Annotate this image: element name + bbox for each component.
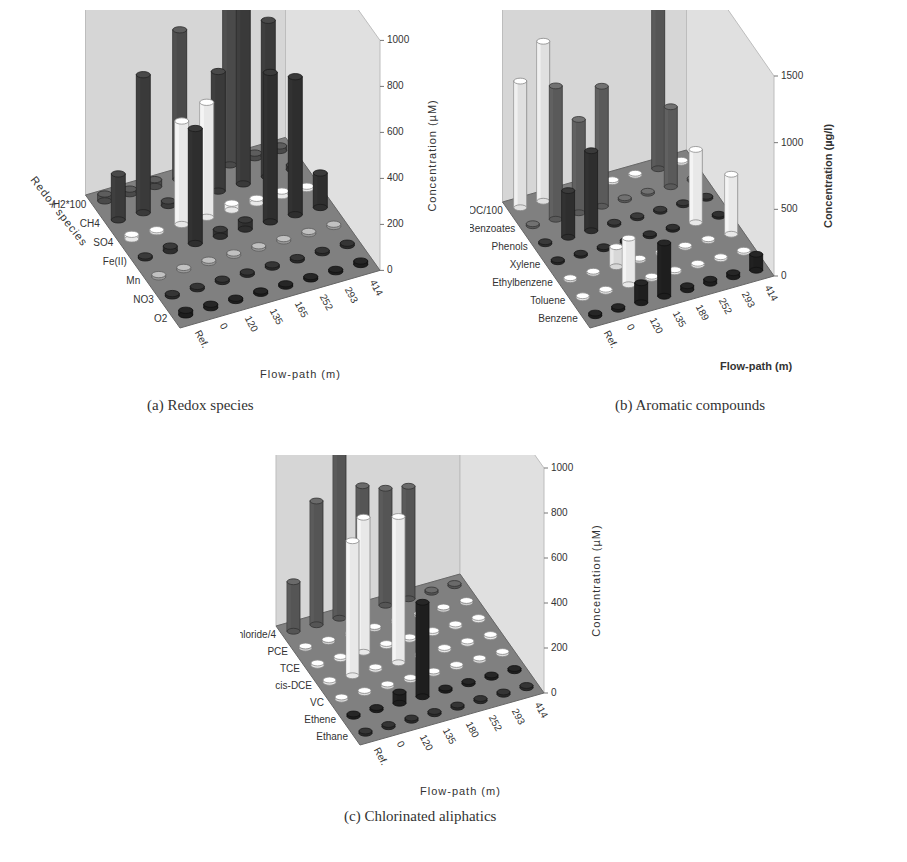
bar-tce [380,641,393,649]
bar-xylene [597,244,610,252]
chlorinated-aliphatics-3d-bar-chart: 02004006008001000Concentration (µM)Ref.0… [240,455,670,805]
z-tick-label: 600 [551,552,568,563]
bar-cis-dce [346,538,359,679]
bar-doc-100 [537,38,550,204]
bar-phenols [562,188,575,241]
x-tick-label: 414 [533,700,551,720]
bar-benzene [612,304,625,313]
bar-ethane [428,709,441,717]
bar-doc-100 [652,10,665,172]
y-tick-label: Xylene [510,259,541,270]
bar-chloride-4 [425,587,438,595]
bar-vc [404,675,417,683]
bar-ch4 [236,10,250,187]
bar-o2 [279,281,293,290]
bar-h2-100 [98,191,112,204]
z-axis-title: Concentration (µM) [426,99,438,211]
bar-ethene [347,711,360,719]
bar-cis-dce [438,645,451,653]
z-axis-title: Concentration (µg/l) [822,124,834,228]
bar-phenols [677,200,690,208]
x-tick-label: 293 [510,707,528,727]
bar-so4 [125,231,139,242]
bar-ethane [405,715,418,723]
bar-no3 [215,276,229,285]
bar-ethane [382,722,395,730]
z-tick-label: 400 [551,597,568,608]
bar-ethene [439,685,452,693]
bar-ethane [520,683,533,691]
bar-vc [358,688,371,696]
y-tick-label: Ethene [304,714,336,725]
bar-chloride-4 [310,498,323,628]
z-tick-label: 0 [387,264,393,275]
y-tick-label: DOC/100 [470,205,503,216]
y-tick-label: Benzoates [470,223,515,234]
bar-doc-100 [514,78,527,211]
aromatic-compounds-3d-bar-chart: 050010001500Concentration (µg/l)Ref.0120… [470,10,900,390]
z-tick-label: 1000 [387,34,410,45]
z-tick-label: 600 [387,126,404,137]
bar-ethene [393,689,406,706]
bar-fe-ii- [263,69,277,225]
bar-chloride-4 [448,581,461,589]
y-tick-label: O2 [154,313,168,324]
x-tick-label: 120 [648,316,666,336]
bar-toluene [691,260,704,268]
bar-cis-dce [461,638,474,646]
z-tick-label: 800 [551,507,568,518]
bar-benzene [681,283,694,293]
bar-ethylbenzene [610,244,623,270]
bar-no3 [190,283,204,292]
bar-vc [496,649,509,657]
x-tick-label: Ref. [193,328,211,349]
bar-mn [152,271,166,280]
bar-ethene [416,599,429,699]
bar-tce [449,621,462,629]
bar-ethene [462,679,475,687]
bar-fe-ii- [188,125,202,246]
bar-mn [227,250,241,259]
y-tick-label: Benzene [538,313,578,324]
bar-phenols [585,148,598,234]
bar-o2 [254,288,268,297]
bar-so4 [225,200,239,213]
bar-xylene [643,231,656,239]
y-tick-label: Ethane [316,731,348,742]
bar-mn [202,257,216,266]
bar-mn [327,221,341,230]
bar-ethylbenzene [725,171,738,237]
bar-o2 [179,307,193,318]
bar-ethene [485,672,498,680]
x-tick-label: 180 [464,720,482,740]
bar-ethene [508,666,521,674]
x-axis-title: Flow-path (m) [260,368,341,380]
z-tick-label: 1000 [551,462,574,473]
bar-ethane [497,689,510,697]
bar-benzoates [618,195,631,203]
x-tick-label: Ref. [372,746,390,767]
bar-ch4 [161,198,175,209]
bar-ethylbenzene [702,236,715,244]
bar-phenols [654,206,667,214]
bar-pce [299,643,312,651]
bar-fe-ii- [313,170,327,211]
y-axis-title: Redox species [28,174,90,248]
bar-ethane [451,702,464,710]
x-tick-label: 135 [671,309,689,329]
bar-cis-dce [392,514,405,666]
y-tick-label: Toluene [530,295,565,306]
bar-pce [437,604,450,612]
z-tick-label: 1000 [781,137,804,148]
bar-o2 [329,266,343,275]
bar-mn [252,243,266,252]
x-tick-label: 252 [717,296,735,316]
bar-benzoates [641,188,654,196]
bar-toluene [737,247,750,255]
bar-xylene [712,211,725,219]
y-tick-label: NO3 [133,294,154,305]
bar-no3 [165,290,179,299]
bar-o2 [204,301,218,311]
bar-benzene [704,276,717,286]
z-tick-label: 0 [551,687,557,698]
